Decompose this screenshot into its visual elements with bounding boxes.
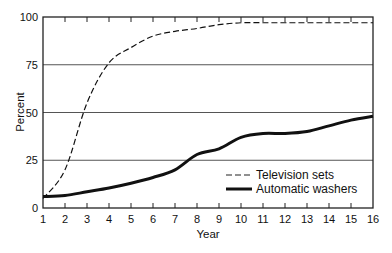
y-tick-label: 100 [20,11,38,23]
x-tick-label: 12 [279,213,291,225]
x-tick-label: 8 [194,213,200,225]
x-axis-tick-labels: 12345678910111213141516 [40,213,379,225]
legend-label-washers: Automatic washers [256,182,357,196]
x-tick-label: 13 [301,213,313,225]
x-tick-label: 3 [84,213,90,225]
x-tick-label: 7 [172,213,178,225]
legend-label-television: Television sets [256,168,334,182]
y-axis-title: Percent [14,91,26,131]
y-tick-label: 0 [32,202,38,214]
y-tick-label: 50 [26,107,38,119]
x-tick-label: 5 [128,213,134,225]
x-tick-label: 11 [257,213,268,225]
x-tick-label: 10 [235,213,247,225]
y-tick-label: 25 [26,154,38,166]
x-tick-label: 2 [62,213,68,225]
x-tick-label: 4 [106,213,112,225]
x-tick-label: 16 [367,213,379,225]
x-tick-label: 6 [150,213,156,225]
x-tick-label: 14 [323,213,335,225]
y-tick-label: 75 [26,59,38,71]
line-chart: 0255075100 12345678910111213141516 Year … [0,0,392,253]
x-tick-label: 15 [345,213,357,225]
x-axis-title: Year [196,228,219,240]
x-tick-label: 9 [216,213,222,225]
x-tick-label: 1 [40,213,46,225]
gridlines [43,65,373,161]
legend: Television sets Automatic washers [226,168,357,196]
